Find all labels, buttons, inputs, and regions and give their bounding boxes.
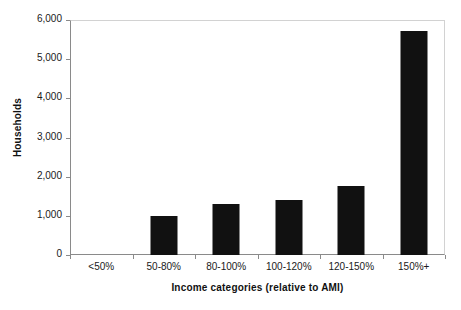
x-axis-tick-mark (258, 255, 259, 259)
y-axis-tick-label: 3,000 (37, 131, 62, 142)
y-axis-tick-label: 1,000 (37, 209, 62, 220)
bar-slot (320, 20, 383, 255)
y-axis-title-label: Households (13, 98, 24, 157)
bar-chart: Households 01,0002,0003,0004,0005,0006,0… (0, 0, 461, 310)
x-axis-tick-labels: <50%50-80%80-100%100-120%120-150%150%+ (70, 261, 445, 277)
x-axis-title: Income categories (relative to AMI) (70, 282, 445, 293)
y-axis-title: Households (8, 0, 28, 255)
bar-slot (133, 20, 196, 255)
y-axis-tick-label: 2,000 (37, 170, 62, 181)
bar-slot (70, 20, 133, 255)
y-axis-tick-label: 5,000 (37, 52, 62, 63)
x-axis-tick-label: 80-100% (195, 261, 258, 272)
bar-slot (195, 20, 258, 255)
x-axis-tick-label: 150%+ (383, 261, 446, 272)
bar (213, 204, 240, 255)
x-axis-tick-mark (383, 255, 384, 259)
bar (275, 200, 302, 255)
bar-slot (258, 20, 321, 255)
y-axis-tick-label: 6,000 (37, 13, 62, 24)
x-axis-ticks (70, 255, 446, 260)
x-axis-tick-label: <50% (70, 261, 133, 272)
x-axis-tick-label: 50-80% (133, 261, 196, 272)
y-axis-tick-label: 0 (56, 248, 62, 259)
bar (338, 186, 365, 255)
y-axis-tick-label: 4,000 (37, 91, 62, 102)
bar (150, 216, 177, 255)
bar (400, 31, 427, 255)
x-axis-tick-label: 100-120% (258, 261, 321, 272)
x-axis-tick-mark (133, 255, 134, 259)
x-axis-tick-mark (195, 255, 196, 259)
x-axis-tick-mark (70, 255, 71, 259)
x-axis-tick-mark (445, 255, 446, 259)
x-axis-tick-label: 120-150% (320, 261, 383, 272)
bar-slot (383, 20, 446, 255)
x-axis-tick-mark (320, 255, 321, 259)
bar-series (70, 20, 445, 255)
